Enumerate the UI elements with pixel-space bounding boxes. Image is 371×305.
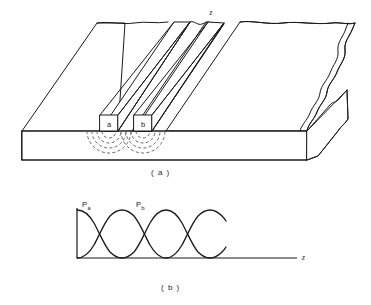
panel-a-axis-label-z: z xyxy=(209,8,213,17)
curve-b-label: P xyxy=(136,200,141,209)
waveguide-b-label: b xyxy=(141,120,145,129)
figure-container: a b z ( a ) P a P b z ( b ) xyxy=(0,0,371,305)
curve-a-annotation: P a xyxy=(82,200,92,211)
substrate-front-face xyxy=(22,131,307,160)
caption-panel-a: ( a ) xyxy=(151,168,170,177)
chart-axis-label-z: z xyxy=(301,253,305,262)
panel-b-chart: P a P b z xyxy=(0,190,371,300)
caption-panel-b: ( b ) xyxy=(161,283,180,292)
curve-a-label: P xyxy=(82,200,87,209)
curve-b-subscript: b xyxy=(142,205,145,211)
panel-a-diagram: a b z xyxy=(0,0,371,180)
curve-a-subscript: a xyxy=(88,205,92,211)
curve-power-b xyxy=(77,210,226,258)
curve-b-annotation: P b xyxy=(136,200,145,211)
